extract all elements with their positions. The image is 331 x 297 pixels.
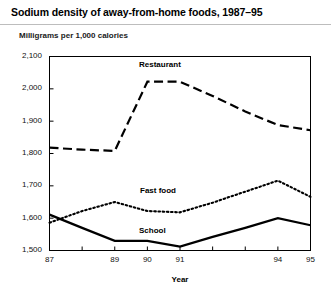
chart-figure: Sodium density of away-from-home foods, … xyxy=(0,0,331,297)
x-axis-tick-label: 90 xyxy=(137,255,157,264)
x-axis-tick-label: 91 xyxy=(170,255,190,264)
x-axis-tick-label: 95 xyxy=(301,255,321,264)
y-axis-tick-label: 1,700 xyxy=(8,180,42,189)
y-axis-tick-label: 2,000 xyxy=(8,83,42,92)
series-line-school xyxy=(50,215,311,247)
y-axis-tick-label: 1,500 xyxy=(8,245,42,254)
series-label-school: School xyxy=(139,226,166,235)
series-line-fast-food xyxy=(50,181,311,223)
chart-series xyxy=(50,82,311,247)
y-axis-tick-label: 1,800 xyxy=(8,148,42,157)
plot-frame xyxy=(50,57,311,251)
series-label-restaurant: Restaurant xyxy=(139,60,181,69)
line-chart-plot xyxy=(0,0,331,297)
chart-axes xyxy=(50,57,311,251)
series-label-fast-food: Fast food xyxy=(140,186,176,195)
y-axis-tick-label: 2,100 xyxy=(8,51,42,60)
y-axis-tick-label: 1,900 xyxy=(8,116,42,125)
y-axis-tick-label: 1,600 xyxy=(8,213,42,222)
series-line-restaurant xyxy=(50,82,311,151)
x-axis-tick-label: 87 xyxy=(40,255,60,264)
x-axis-tick-label: 94 xyxy=(268,255,288,264)
x-axis-title: Year xyxy=(160,275,200,284)
x-axis-tick-label: 89 xyxy=(105,255,125,264)
